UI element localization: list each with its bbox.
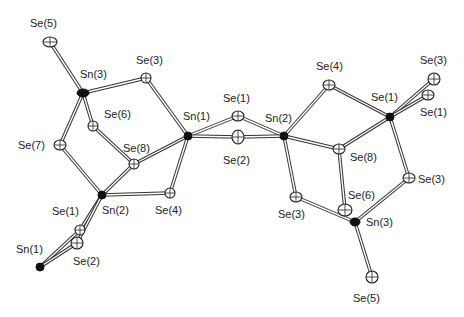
atom-label: Se(2) bbox=[73, 255, 100, 267]
sn-atom bbox=[77, 89, 89, 97]
bond bbox=[102, 164, 134, 195]
atom-label: Se(6) bbox=[104, 108, 131, 120]
atom-label: Sn(2) bbox=[265, 112, 292, 124]
se-atom bbox=[366, 271, 378, 283]
se-atom bbox=[338, 204, 352, 216]
atom-label: Se(3) bbox=[418, 173, 445, 185]
atom-label: Sn(3) bbox=[366, 216, 393, 228]
bond bbox=[238, 136, 284, 137]
bond bbox=[83, 78, 146, 93]
bond bbox=[60, 145, 102, 195]
atom-label: Se(5) bbox=[30, 17, 57, 29]
se-atom bbox=[403, 173, 415, 183]
se-atom bbox=[232, 111, 244, 121]
se-atom bbox=[323, 80, 335, 90]
atom-label: Se(2) bbox=[223, 154, 250, 166]
atom-label: Se(3) bbox=[420, 54, 447, 66]
atom-label: Sn(3) bbox=[80, 68, 107, 80]
se-atom bbox=[129, 159, 139, 169]
sn-atom bbox=[184, 132, 192, 140]
se-atom bbox=[141, 73, 151, 83]
bond bbox=[339, 117, 390, 149]
se-atom bbox=[422, 90, 434, 100]
bond bbox=[188, 136, 238, 137]
atom-label: Se(1) bbox=[371, 91, 398, 103]
bond bbox=[60, 93, 83, 145]
atom-label: Se(4) bbox=[155, 204, 182, 216]
atom-label: Se(3) bbox=[136, 54, 163, 66]
atom-label: Sn(1) bbox=[16, 243, 43, 255]
se-atom bbox=[75, 225, 85, 235]
atom-label: Se(4) bbox=[316, 60, 343, 72]
bond bbox=[284, 136, 339, 149]
se-atom bbox=[71, 237, 83, 249]
atom-label: Se(7) bbox=[18, 139, 45, 151]
se-atom bbox=[165, 188, 175, 198]
atom-label: Sn(1) bbox=[183, 110, 210, 122]
atom-label: Se(8) bbox=[123, 142, 150, 154]
sn-atom bbox=[280, 132, 288, 140]
se-atom bbox=[43, 37, 57, 47]
bond bbox=[284, 136, 296, 197]
bond bbox=[146, 78, 188, 136]
bond bbox=[40, 243, 77, 267]
bond bbox=[102, 193, 170, 195]
atom-label: Se(1) bbox=[420, 106, 447, 118]
atom-label: Se(6) bbox=[348, 189, 375, 201]
atom-label: Se(8) bbox=[350, 151, 377, 163]
sn-atom bbox=[98, 191, 106, 199]
bond bbox=[77, 195, 102, 243]
crystal-structure-diagram: Se(5)Sn(3)Se(3)Se(6)Se(7)Sn(1)Se(8)Sn(2)… bbox=[0, 0, 464, 317]
labels-layer: Se(5)Sn(3)Se(3)Se(6)Se(7)Sn(1)Se(8)Sn(2)… bbox=[16, 17, 447, 304]
atom-label: Se(5) bbox=[353, 292, 380, 304]
atom-label: Se(1) bbox=[223, 92, 250, 104]
se-atom bbox=[88, 121, 98, 131]
se-atom bbox=[333, 144, 345, 154]
atom-label: Sn(2) bbox=[102, 204, 129, 216]
se-atom bbox=[428, 73, 440, 85]
sn-atom bbox=[350, 218, 360, 226]
bond bbox=[355, 222, 372, 277]
bond bbox=[339, 149, 345, 210]
sn-atom bbox=[36, 263, 44, 271]
se-atom bbox=[232, 130, 244, 144]
sn-atom bbox=[386, 113, 394, 121]
atom-label: Se(3) bbox=[278, 208, 305, 220]
se-atom bbox=[54, 140, 66, 150]
se-atom bbox=[290, 192, 302, 202]
bond bbox=[390, 117, 409, 178]
bond bbox=[284, 85, 329, 136]
bond bbox=[50, 42, 83, 93]
atom-label: Se(1) bbox=[52, 205, 79, 217]
